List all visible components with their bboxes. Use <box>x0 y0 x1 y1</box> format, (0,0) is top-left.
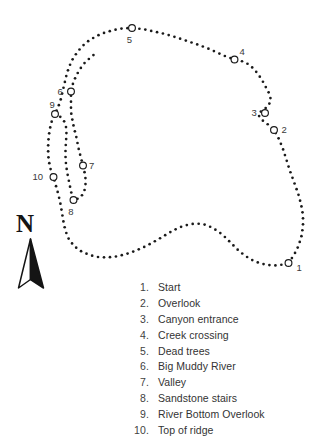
trail-marker-number: 2 <box>282 124 287 135</box>
trail-dot <box>65 126 68 129</box>
trail-dot <box>132 250 135 253</box>
trail-dot <box>71 58 74 61</box>
trail-dot <box>203 223 206 226</box>
trail-dot <box>59 98 62 101</box>
trail-dot <box>126 252 129 255</box>
trail-dot <box>65 138 68 141</box>
legend-item-number: 9. <box>127 408 149 420</box>
trail-dot <box>284 154 287 157</box>
trail-dot <box>236 248 239 251</box>
trail-dot <box>164 234 167 237</box>
trail-dot <box>144 28 147 31</box>
legend-item-label: Dead trees <box>149 345 210 357</box>
trail-marker-number: 8 <box>68 206 73 217</box>
trail-dot <box>138 27 141 30</box>
trail-dot <box>80 159 83 162</box>
trail-marker: 6 <box>58 86 75 97</box>
legend-item-number: 7. <box>127 376 149 388</box>
trail-dot <box>74 77 77 80</box>
trail-dot <box>65 168 68 171</box>
trail-dot <box>191 223 194 226</box>
trail-dot <box>201 45 204 48</box>
trail-dot <box>84 177 87 180</box>
trail-dot <box>75 136 78 139</box>
trail-dot <box>293 182 296 185</box>
trail-dot <box>241 252 244 255</box>
trail-dot <box>173 35 176 38</box>
trail-dot <box>70 112 73 115</box>
trail-dot <box>83 189 86 192</box>
trail-dot <box>55 185 58 188</box>
trail-dot <box>79 153 82 156</box>
trail-dot <box>82 44 85 47</box>
legend-item: 3.Canyon entrance <box>127 313 317 329</box>
trail-dot <box>78 48 81 51</box>
legend-item: 8.Sandstone stairs <box>127 392 317 408</box>
legend-item: 6.Big Muddy River <box>127 360 317 376</box>
trail-dot <box>72 124 75 127</box>
trail-dot <box>85 252 88 255</box>
trail-marker-number: 9 <box>50 99 55 110</box>
trail-dot <box>295 188 298 191</box>
trail-dot <box>264 107 267 110</box>
trail-dot <box>184 39 187 42</box>
trail-dot <box>294 252 297 255</box>
trail-dot <box>65 162 68 165</box>
trail-dot <box>64 81 67 84</box>
legend-item-number: 8. <box>127 392 149 404</box>
trail-dot <box>58 196 61 199</box>
trail-dot <box>64 156 67 159</box>
trail-dot <box>159 237 162 240</box>
trail-dot <box>287 165 290 168</box>
legend-item-label: Canyon entrance <box>149 313 239 325</box>
trail-dot <box>302 223 305 226</box>
trail-marker-circle-icon <box>271 127 278 134</box>
compass-north-letter: N <box>16 210 34 237</box>
trail-dot <box>232 244 235 247</box>
trail-dot <box>64 144 67 147</box>
trail-dot <box>76 142 79 145</box>
legend-item-label: Valley <box>149 376 186 388</box>
trail-dot <box>269 97 272 100</box>
trail-dot <box>75 246 78 249</box>
trail-dot <box>282 148 285 151</box>
trail-dot <box>262 119 265 122</box>
trail-dot <box>92 54 95 57</box>
trail-dot <box>97 256 100 259</box>
trail-dot <box>190 41 193 44</box>
trail-path-inner-spur <box>54 54 95 200</box>
trail-dot <box>66 174 69 177</box>
legend-item-number: 2. <box>127 297 149 309</box>
trail-dot <box>228 240 231 243</box>
trail-dot <box>258 115 261 118</box>
legend-item: 4.Creek crossing <box>127 329 317 345</box>
trail-dot <box>214 228 217 231</box>
trail-marker: 2 <box>271 124 287 135</box>
trail-dot <box>301 229 304 232</box>
legend-item-number: 4. <box>127 329 149 341</box>
trail-dot <box>300 205 303 208</box>
trail-dot <box>114 28 117 31</box>
legend-item-number: 1. <box>127 281 149 293</box>
trail-dot <box>108 30 111 33</box>
legend-item-label: Start <box>149 281 180 293</box>
trail-dot <box>83 62 86 65</box>
trail-dot <box>185 224 188 227</box>
trail-dot <box>285 159 288 162</box>
trail-dot <box>109 256 112 259</box>
legend-item: 7.Valley <box>127 376 317 392</box>
trail-dot <box>258 75 261 78</box>
trail-markers: 12345678910 <box>33 25 302 273</box>
trail-dot <box>115 255 118 258</box>
legend-item-label: Big Muddy River <box>149 360 236 372</box>
trail-dot <box>69 63 72 66</box>
trail-dot <box>291 257 294 260</box>
trail-dot <box>70 100 73 103</box>
trail-dot <box>224 236 227 239</box>
trail-dot <box>218 52 221 55</box>
legend-item: 2.Overlook <box>127 297 317 313</box>
trail-dot <box>280 263 283 266</box>
trail-marker-number: 6 <box>58 86 63 97</box>
trail-dot <box>213 50 216 53</box>
trail-dot <box>156 31 159 34</box>
